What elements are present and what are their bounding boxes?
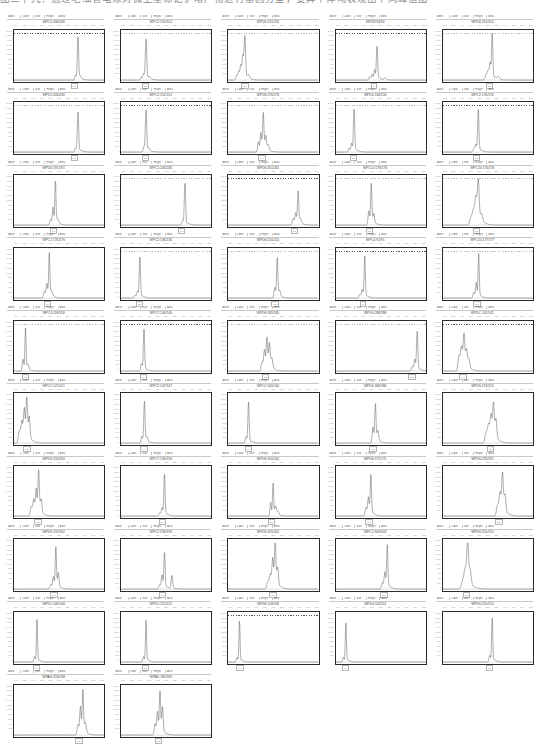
- electropherogram-panel[interactable]: AlleleLabelSizeHeightAreaWPC2:151/151100…: [107, 87, 214, 160]
- peak-table-header-height: Height: [367, 306, 380, 309]
- trace-plot-box[interactable]: [227, 392, 319, 446]
- electropherogram-panel[interactable]: AlleleLabelSizeHeightAreaWPC1:246/246100…: [0, 14, 107, 87]
- trace-plot-box[interactable]: [442, 101, 534, 155]
- trace-plot-box[interactable]: [13, 247, 105, 301]
- trace-plot-box[interactable]: [120, 611, 212, 665]
- trace-plot-box[interactable]: [120, 247, 212, 301]
- electropherogram-panel[interactable]: AlleleLabelSizeHeightAreaWPC2:147/147100…: [107, 378, 214, 451]
- trace-plot-box[interactable]: [335, 392, 427, 446]
- trace-plot-box[interactable]: [335, 538, 427, 592]
- electropherogram-panel[interactable]: AlleleLabelSizeHeightAreaWPD6:210/210100…: [214, 232, 321, 305]
- electropherogram-panel[interactable]: AlleleLabelSizeHeightAreaWPD6:205/205100…: [214, 524, 321, 597]
- trace-plot-box[interactable]: [120, 29, 212, 83]
- trace-plot-box[interactable]: [13, 101, 105, 155]
- electropherogram-panel[interactable]: AlleleLabelSizeHeightAreaWPD6:150/150100…: [429, 524, 536, 597]
- electropherogram-panel[interactable]: AlleleLabelSizeHeightAreaWPD1:146/146100…: [0, 596, 107, 669]
- electropherogram-panel[interactable]: AlleleLabelSizeHeightAreaWPD6:191/191100…: [0, 160, 107, 233]
- trace-plot-box[interactable]: [442, 174, 534, 228]
- electropherogram-panel[interactable]: AlleleLabelSizeHeightAreaWPD4:114/114100…: [322, 596, 429, 669]
- electropherogram-panel[interactable]: AlleleLabelSizeHeightAreaWPD6:185/185100…: [214, 305, 321, 378]
- trace-plot-box[interactable]: [227, 29, 319, 83]
- electropherogram-panel[interactable]: AlleleLabelSizeHeightAreaWPD6:210/210100…: [429, 596, 536, 669]
- electropherogram-panel[interactable]: AlleleLabelSizeHeightAreaWPD6:150/150100…: [0, 451, 107, 524]
- electropherogram-panel[interactable]: AlleleLabelSizeHeightAreaWPC2:303/303100…: [322, 524, 429, 597]
- trace-plot-box[interactable]: [120, 101, 212, 155]
- trace-plot-box[interactable]: [120, 684, 212, 738]
- trace-plot-box[interactable]: [442, 465, 534, 519]
- electropherogram-panel[interactable]: AlleleLabelSizeHeightAreaWPDC:141/141100…: [429, 305, 536, 378]
- trace-plot-box[interactable]: [227, 320, 319, 374]
- electropherogram-panel[interactable]: AlleleLabelSizeHeightAreaWPAD:185/185100…: [107, 669, 214, 742]
- trace-plot-box[interactable]: [442, 392, 534, 446]
- electropherogram-panel[interactable]: AlleleLabelSizeHeightAreaWPC7:196/196100…: [107, 451, 214, 524]
- trace-plot-box[interactable]: [120, 465, 212, 519]
- trace-plot-box[interactable]: [120, 538, 212, 592]
- electropherogram-panel[interactable]: AlleleLabelSizeHeightAreaWPC10:176/17610…: [322, 160, 429, 233]
- trace-plot-box[interactable]: [335, 174, 427, 228]
- electropherogram-panel[interactable]: AlleleLabelSizeHeightAreaWPC2:151/151100…: [107, 14, 214, 87]
- electropherogram-panel[interactable]: AlleleLabelSizeHeightAreaWPD6:288/288100…: [322, 305, 429, 378]
- trace-plot-box[interactable]: [227, 465, 319, 519]
- electropherogram-panel[interactable]: AlleleLabelSizeHeightAreaWPD6:200/200100…: [214, 451, 321, 524]
- trace-plot-box[interactable]: [13, 392, 105, 446]
- trace-plot-box[interactable]: [13, 538, 105, 592]
- electropherogram-panel[interactable]: AlleleLabelSizeHeightAreaWPD6:118/118100…: [214, 596, 321, 669]
- trace-plot-box[interactable]: [442, 247, 534, 301]
- trace-plot-box[interactable]: [13, 320, 105, 374]
- electropherogram-panel[interactable]: AlleleLabelSizeHeightAreaWPD6:192/192100…: [0, 524, 107, 597]
- trace-plot-box[interactable]: [335, 247, 427, 301]
- electropherogram-panel[interactable]: AlleleLabelSizeHeightAreaWPC1:121/121100…: [0, 378, 107, 451]
- trace-plot-box[interactable]: [13, 465, 105, 519]
- trace-plot-box[interactable]: [13, 29, 105, 83]
- electropherogram-panel[interactable]: AlleleLabelSizeHeightAreaWPC2:196/196100…: [107, 524, 214, 597]
- electropherogram-panel[interactable]: AlleleLabelSizeHeightAreaWPD6:176/176100…: [214, 87, 321, 160]
- trace-plot-box[interactable]: [120, 174, 212, 228]
- trace-plot-box[interactable]: [227, 611, 319, 665]
- trace-plot-box[interactable]: [120, 320, 212, 374]
- trace-plot-box[interactable]: [120, 392, 212, 446]
- electropherogram-panel[interactable]: AlleleLabelSizeHeightAreaWPC10:177/17710…: [429, 232, 536, 305]
- electropherogram-panel[interactable]: AlleleLabelSizeHeightAreaWPC4:118/118100…: [0, 305, 107, 378]
- electropherogram-panel[interactable]: AlleleLabelSizeHeightAreaWPD6:213/213100…: [429, 378, 536, 451]
- electropherogram-panel[interactable]: AlleleLabelSizeHeightAreaWPD4:134/134100…: [322, 87, 429, 160]
- electropherogram-panel[interactable]: AlleleLabelSizeHeightAreaWPD6:186/186100…: [322, 378, 429, 451]
- electropherogram-panel[interactable]: AlleleLabelSizeHeightAreaWPC2:176/176100…: [429, 87, 536, 160]
- electropherogram-panel[interactable]: AlleleLabelSizeHeightAreaWPD6:175/175100…: [322, 451, 429, 524]
- x-axis-tick: 300: [207, 388, 211, 392]
- electropherogram-panel[interactable]: AlleleLabelSizeHeightAreaWPD6:235/235100…: [429, 451, 536, 524]
- electropherogram-panel[interactable]: AlleleLabelSizeHeightAreaWPC7:146/146100…: [107, 305, 214, 378]
- electropherogram-panel[interactable]: AlleleLabelSizeHeightAreaWPD6:210/210100…: [429, 14, 536, 87]
- trace-plot-box[interactable]: [335, 465, 427, 519]
- trace-plot-box[interactable]: [442, 538, 534, 592]
- trace-plot-box[interactable]: [335, 611, 427, 665]
- trace-plot-box[interactable]: [13, 174, 105, 228]
- y-axis-tick: 1,000: [328, 417, 334, 420]
- electropherogram-panel[interactable]: AlleleLabelSizeHeightAreaWPC4:91/9110012…: [322, 232, 429, 305]
- trace-plot-box[interactable]: [227, 538, 319, 592]
- electropherogram-panel[interactable]: AlleleLabelSizeHeightAreaWPD6:261/261100…: [214, 160, 321, 233]
- trace-plot-box[interactable]: [442, 611, 534, 665]
- electropherogram-panel[interactable]: AlleleLabelSizeHeightAreaWPD2:151/151100…: [107, 596, 214, 669]
- electropherogram-panel[interactable]: AlleleLabelSizeHeightAreaWPC10:176/17610…: [429, 160, 536, 233]
- electropherogram-panel[interactable]: AlleleLabelSizeHeightAreaWPD8:94/9410012…: [322, 14, 429, 87]
- electropherogram-panel[interactable]: AlleleLabelSizeHeightAreaWPC2:140/140100…: [214, 378, 321, 451]
- trace-plot-box[interactable]: [13, 611, 105, 665]
- electropherogram-panel[interactable]: AlleleLabelSizeHeightAreaWPC1:246/246100…: [107, 160, 214, 233]
- trace-plot-box[interactable]: [13, 684, 105, 738]
- trace-plot-box[interactable]: [442, 320, 534, 374]
- electropherogram-panel[interactable]: AlleleLabelSizeHeightAreaWPAG:258/258100…: [0, 669, 107, 742]
- x-axis-tick: 200: [486, 388, 490, 392]
- trace-plot-box[interactable]: [335, 101, 427, 155]
- electropherogram-panel[interactable]: AlleleLabelSizeHeightAreaWPD6:131/131100…: [214, 14, 321, 87]
- trace-plot-box[interactable]: [227, 247, 319, 301]
- electropherogram-panel[interactable]: AlleleLabelSizeHeightAreaWPD1:246/246100…: [0, 87, 107, 160]
- electropherogram-panel[interactable]: AlleleLabelSizeHeightAreaWPC2:136/136100…: [107, 232, 214, 305]
- trace-plot-box[interactable]: [442, 29, 534, 83]
- trace-plot-box[interactable]: [335, 29, 427, 83]
- trace-plot-box[interactable]: [227, 101, 319, 155]
- y-axis-tick: 0: [332, 659, 333, 662]
- electropherogram-panel[interactable]: AlleleLabelSizeHeightAreaWPC1:176/176100…: [0, 232, 107, 305]
- trace-plot-box[interactable]: [335, 320, 427, 374]
- x-axis-tick: 120: [451, 170, 455, 174]
- trace-plot-box[interactable]: [227, 174, 319, 228]
